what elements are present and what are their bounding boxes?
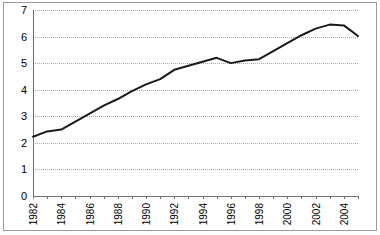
x-tick-label-2002: 2002 xyxy=(311,203,322,226)
y-tick-label-1: 1 xyxy=(21,163,27,175)
y-tick-label-3: 3 xyxy=(21,110,27,122)
y-tick-label-5: 5 xyxy=(21,57,27,69)
x-tick-label-1986: 1986 xyxy=(85,203,96,226)
x-tick-label-2000: 2000 xyxy=(282,203,293,226)
data-series xyxy=(33,25,358,137)
gridlines xyxy=(33,11,358,197)
x-tick-label-1992: 1992 xyxy=(169,203,180,226)
plot-area-wrapper: 01234567 1982198419861988199019921994199… xyxy=(0,0,380,235)
y-axis-tick-labels: 01234567 xyxy=(21,4,27,202)
y-tick-label-6: 6 xyxy=(21,31,27,43)
y-tick-label-7: 7 xyxy=(21,4,27,16)
y-tick-label-4: 4 xyxy=(21,84,27,96)
x-tick-label-1988: 1988 xyxy=(113,203,124,226)
x-tick-label-1990: 1990 xyxy=(141,203,152,226)
y-tick-label-2: 2 xyxy=(21,137,27,149)
x-axis-tick-labels: 1982198419861988199019921994199619982000… xyxy=(28,203,350,226)
x-tick-label-1996: 1996 xyxy=(226,203,237,226)
x-tick-label-1994: 1994 xyxy=(198,203,209,226)
line-chart: 01234567 1982198419861988199019921994199… xyxy=(0,0,380,235)
x-tick-label-2004: 2004 xyxy=(339,203,350,226)
x-tick-label-1982: 1982 xyxy=(28,203,39,226)
series-line-value xyxy=(33,25,358,137)
x-tick-label-1984: 1984 xyxy=(56,203,67,226)
x-tick-label-1998: 1998 xyxy=(254,203,265,226)
chart-figure: 01234567 1982198419861988199019921994199… xyxy=(0,0,380,235)
y-tick-label-0: 0 xyxy=(21,190,27,202)
